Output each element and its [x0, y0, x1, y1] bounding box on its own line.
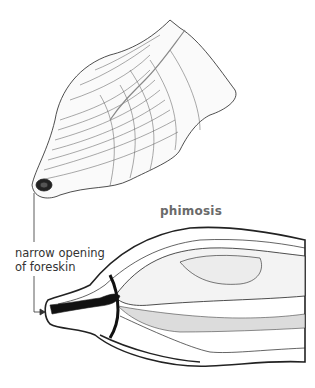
- annotation-narrow-opening: narrow opening of foreskin: [15, 246, 105, 274]
- external-view-drawing: [32, 20, 236, 198]
- diagram-title: phimosis: [160, 204, 222, 218]
- phimosis-illustration: [0, 0, 315, 388]
- annotation-line-1: narrow opening: [15, 246, 105, 260]
- annotation-line-2: of foreskin: [15, 260, 105, 274]
